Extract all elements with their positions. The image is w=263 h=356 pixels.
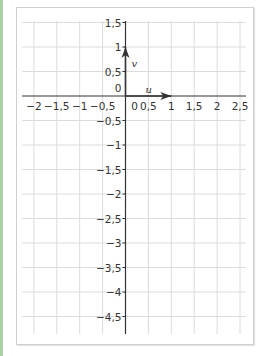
y-tick-label: 1,5 bbox=[105, 17, 122, 29]
x-tick-label: 1 bbox=[168, 100, 175, 112]
vector-label-u: u bbox=[145, 84, 151, 95]
y-tick-label: −1 bbox=[106, 139, 121, 151]
x-tick-label: 2 bbox=[214, 100, 221, 112]
y-tick-label: −4,5 bbox=[96, 311, 122, 323]
y-tick-label: 1 bbox=[115, 41, 122, 53]
x-tick-label: 0 bbox=[131, 100, 138, 112]
coordinate-plane: −2−1,5−1−0,500,511,522,51,510,50−0,5−1−1… bbox=[0, 0, 263, 356]
x-tick-label: −0,5 bbox=[90, 100, 116, 112]
y-tick-label: −2,5 bbox=[96, 213, 122, 225]
y-tick-label: −4 bbox=[106, 286, 122, 298]
x-tick-label: −1 bbox=[72, 100, 87, 112]
y-tick-label: −3 bbox=[106, 237, 121, 249]
y-tick-label: −0,5 bbox=[96, 115, 122, 127]
x-tick-label: 1,5 bbox=[186, 100, 203, 112]
y-tick-label: 0,5 bbox=[105, 66, 122, 78]
y-tick-label: −3,5 bbox=[96, 262, 122, 274]
x-tick-label: 0,5 bbox=[140, 100, 157, 112]
y-tick-label: −1,5 bbox=[96, 164, 122, 176]
x-tick-label: 2,5 bbox=[232, 100, 249, 112]
y-tick-label: 0 bbox=[115, 82, 122, 94]
x-tick-label: −1,5 bbox=[44, 100, 70, 112]
y-tick-label: −2 bbox=[106, 188, 121, 200]
x-tick-label: −2 bbox=[26, 100, 41, 112]
vector-label-v: v bbox=[132, 58, 138, 69]
